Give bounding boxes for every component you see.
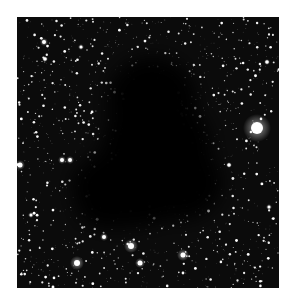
star-field	[17, 17, 279, 288]
nebula-photo	[17, 17, 279, 288]
dark-cloud	[72, 57, 222, 229]
